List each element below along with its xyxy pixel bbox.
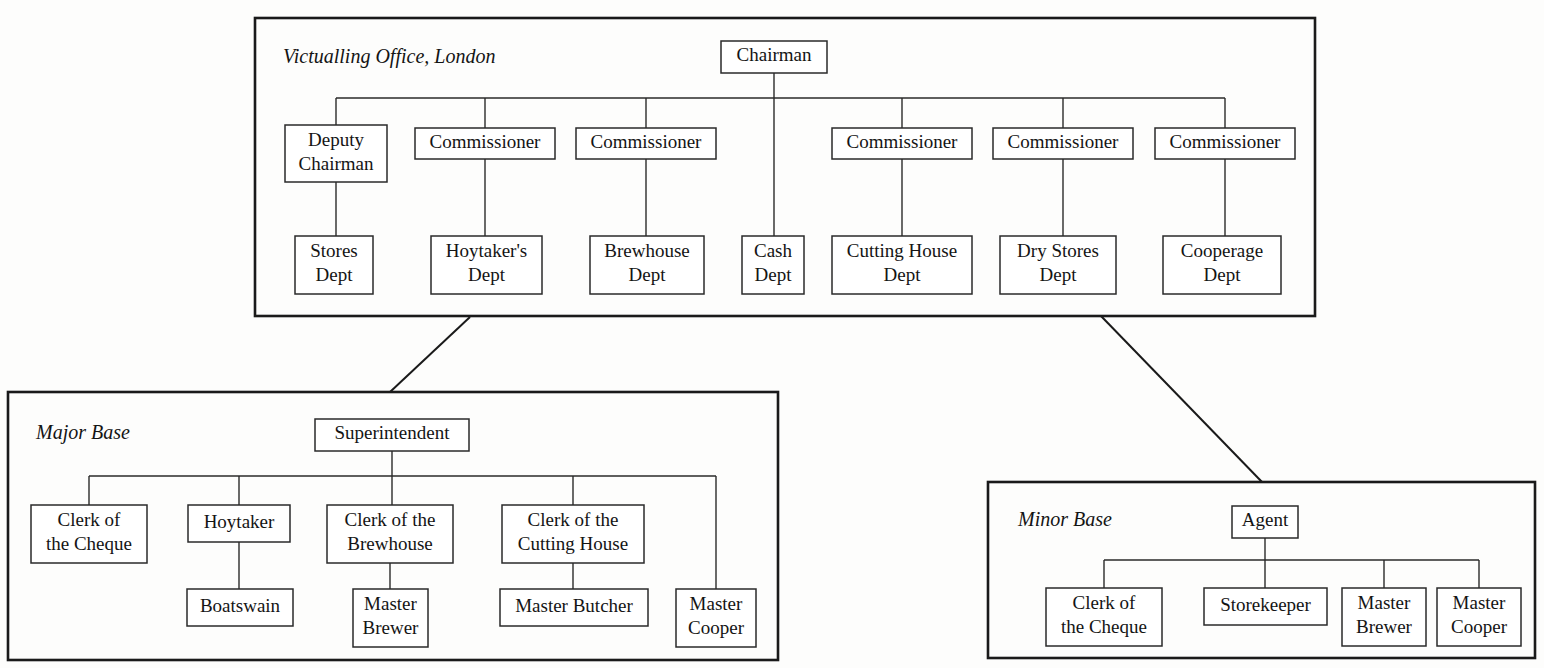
node-label-boatswain: Boatswain: [200, 595, 281, 616]
node-label-master-brewer-minor-line2: Brewer: [1356, 616, 1413, 637]
org-chart-svg: Victualling Office, LondonChairmanDeputy…: [0, 0, 1544, 668]
node-commissioner-5[interactable]: Commissioner: [1155, 128, 1295, 159]
node-stores-dept[interactable]: StoresDept: [295, 236, 373, 294]
node-commissioner-4[interactable]: Commissioner: [993, 128, 1133, 159]
node-clerk-of-the-brewhouse[interactable]: Clerk of theBrewhouse: [327, 505, 453, 563]
node-master-butcher[interactable]: Master Butcher: [500, 589, 648, 626]
node-commissioner-3[interactable]: Commissioner: [832, 128, 972, 159]
node-label-stores-dept-line2: Dept: [316, 264, 354, 285]
node-label-master-butcher: Master Butcher: [515, 595, 633, 616]
node-storekeeper[interactable]: Storekeeper: [1204, 588, 1327, 625]
panel-minor-base: Minor BaseAgentClerk ofthe ChequeStoreke…: [988, 482, 1535, 658]
node-superintendent[interactable]: Superintendent: [315, 419, 469, 451]
node-label-cash-dept-line2: Dept: [755, 264, 793, 285]
node-label-dry-stores-dept-line1: Dry Stores: [1017, 240, 1099, 261]
node-label-master-brewer-minor-line1: Master: [1358, 592, 1411, 613]
node-clerk-of-the-cutting-house[interactable]: Clerk of theCutting House: [502, 505, 644, 563]
node-label-cooperage-dept-line2: Dept: [1204, 264, 1242, 285]
node-label-brewhouse-dept-line2: Dept: [629, 264, 667, 285]
node-label-commissioner-2: Commissioner: [591, 131, 703, 152]
node-label-storekeeper: Storekeeper: [1220, 594, 1311, 615]
node-label-clerk-of-the-cheque-minor-line1: Clerk of: [1073, 592, 1136, 613]
node-label-deputy-chairman-line1: Deputy: [308, 129, 364, 150]
node-label-clerk-of-the-cutting-house-line2: Cutting House: [518, 533, 628, 554]
node-label-master-cooper-minor-line1: Master: [1453, 592, 1506, 613]
node-master-cooper-major[interactable]: MasterCooper: [676, 589, 756, 647]
node-label-cooperage-dept-line1: Cooperage: [1181, 240, 1263, 261]
node-label-agent: Agent: [1242, 509, 1289, 530]
node-dry-stores-dept[interactable]: Dry StoresDept: [1000, 236, 1116, 294]
node-label-master-brewer-major-line1: Master: [364, 593, 417, 614]
node-label-hoytaker: Hoytaker: [204, 511, 275, 532]
inter-panel-link-office-to-major-base: [390, 317, 470, 392]
node-boatswain[interactable]: Boatswain: [187, 589, 293, 626]
node-label-dry-stores-dept-line2: Dept: [1040, 264, 1078, 285]
node-cutting-house-dept[interactable]: Cutting HouseDept: [832, 236, 972, 294]
node-label-master-cooper-major-line2: Cooper: [688, 617, 745, 638]
node-label-hoytakers-dept-line1: Hoytaker's: [446, 240, 528, 261]
panel-title-minor-base: Minor Base: [1017, 508, 1112, 530]
node-cooperage-dept[interactable]: CooperageDept: [1163, 236, 1281, 294]
node-master-cooper-minor[interactable]: MasterCooper: [1437, 588, 1521, 646]
node-clerk-of-the-cheque-minor[interactable]: Clerk ofthe Cheque: [1046, 588, 1162, 646]
node-label-commissioner-3: Commissioner: [847, 131, 959, 152]
node-master-brewer-major[interactable]: MasterBrewer: [353, 589, 428, 647]
node-label-master-cooper-minor-line2: Cooper: [1451, 616, 1508, 637]
node-deputy-chairman[interactable]: DeputyChairman: [285, 125, 387, 182]
node-label-stores-dept-line1: Stores: [310, 240, 358, 261]
node-label-clerk-of-the-cheque-minor-line2: the Cheque: [1061, 616, 1147, 637]
node-commissioner-2[interactable]: Commissioner: [576, 128, 716, 159]
panel-major-base: Major BaseSuperintendentClerk ofthe Cheq…: [8, 392, 778, 660]
node-chairman[interactable]: Chairman: [721, 41, 827, 73]
node-hoytaker[interactable]: Hoytaker: [188, 505, 290, 542]
node-label-cash-dept-line1: Cash: [754, 240, 793, 261]
panel-victualling-office: Victualling Office, LondonChairmanDeputy…: [255, 18, 1315, 316]
node-label-clerk-of-the-cheque-major-line2: the Cheque: [46, 533, 132, 554]
panel-title-victualling-office: Victualling Office, London: [283, 45, 495, 68]
node-agent[interactable]: Agent: [1232, 506, 1298, 538]
node-label-clerk-of-the-cutting-house-line1: Clerk of the: [528, 509, 619, 530]
panel-title-major-base: Major Base: [35, 421, 130, 444]
node-label-commissioner-4: Commissioner: [1008, 131, 1120, 152]
node-label-clerk-of-the-brewhouse-line2: Brewhouse: [347, 533, 432, 554]
node-label-clerk-of-the-brewhouse-line1: Clerk of the: [345, 509, 436, 530]
node-label-master-cooper-major-line1: Master: [690, 593, 743, 614]
node-label-deputy-chairman-line2: Chairman: [299, 153, 374, 174]
node-label-clerk-of-the-cheque-major-line1: Clerk of: [58, 509, 121, 530]
panels-layer: Victualling Office, LondonChairmanDeputy…: [8, 18, 1535, 660]
node-label-chairman: Chairman: [737, 44, 812, 65]
inter-panel-link-office-to-minor-base: [1101, 316, 1262, 482]
node-label-master-brewer-major-line2: Brewer: [363, 617, 420, 638]
node-brewhouse-dept[interactable]: BrewhouseDept: [590, 236, 704, 294]
node-label-commissioner-1: Commissioner: [430, 131, 542, 152]
node-label-hoytakers-dept-line2: Dept: [468, 264, 506, 285]
node-master-brewer-minor[interactable]: MasterBrewer: [1342, 588, 1426, 646]
node-hoytakers-dept[interactable]: Hoytaker'sDept: [431, 236, 542, 294]
node-cash-dept[interactable]: CashDept: [742, 236, 804, 294]
node-label-commissioner-5: Commissioner: [1170, 131, 1282, 152]
node-label-superintendent: Superintendent: [334, 422, 450, 443]
node-label-cutting-house-dept-line2: Dept: [884, 264, 922, 285]
node-label-cutting-house-dept-line1: Cutting House: [847, 240, 957, 261]
inter-panel-links-layer: [390, 316, 1262, 482]
node-label-brewhouse-dept-line1: Brewhouse: [604, 240, 689, 261]
node-clerk-of-the-cheque-major[interactable]: Clerk ofthe Cheque: [31, 505, 147, 563]
org-chart-figure: Victualling Office, LondonChairmanDeputy…: [0, 0, 1544, 668]
node-commissioner-1[interactable]: Commissioner: [415, 128, 555, 159]
